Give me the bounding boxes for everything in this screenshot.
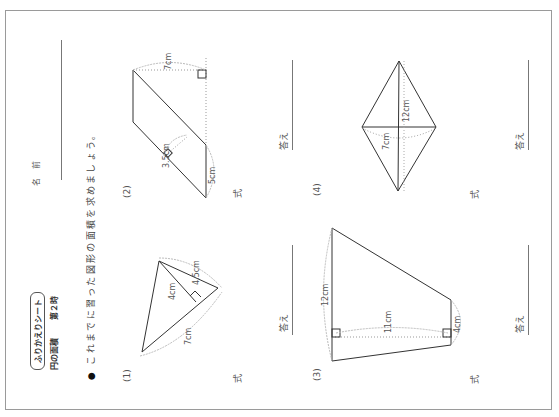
trapezoid-figure: [324, 228, 461, 361]
tri-label-7cm: 7cm: [184, 328, 193, 345]
rhombus-label-7cm: 7cm: [382, 133, 391, 150]
rhombus-label-12cm: 12cm: [402, 100, 411, 122]
para-label-5cm: 5cm: [208, 167, 217, 184]
tri-label-4cm: 4cm: [168, 283, 177, 300]
para-label-7cm: 7cm: [164, 53, 173, 70]
para-label-3-5cm: 3.5cm: [162, 143, 171, 168]
tri-label-4-5cm: 4.5cm: [192, 260, 201, 285]
figures: [0, 0, 559, 417]
trap-label-4cm: 4cm: [453, 316, 462, 333]
triangle-figure: [140, 258, 222, 356]
trap-label-11cm: 11cm: [384, 311, 393, 333]
rhombus-figure: [362, 61, 436, 191]
parallelogram-figure: [133, 58, 214, 198]
trap-label-12cm: 12cm: [321, 284, 330, 306]
